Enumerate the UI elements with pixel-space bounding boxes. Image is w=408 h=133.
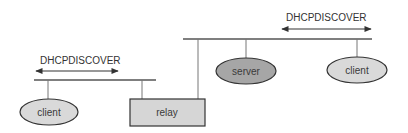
right-network-segment: DHCPDISCOVER xyxy=(183,12,372,99)
client-left-label: client xyxy=(37,107,61,118)
node-server: server xyxy=(216,58,276,84)
client-right-label: client xyxy=(345,65,369,76)
relay-label: relay xyxy=(156,107,178,118)
right-message-label: DHCPDISCOVER xyxy=(286,12,367,23)
left-message-label: DHCPDISCOVER xyxy=(40,55,121,66)
node-client-right: client xyxy=(327,57,387,83)
node-client-left: client xyxy=(20,99,78,125)
server-label: server xyxy=(232,66,260,77)
dhcp-relay-diagram: DHCPDISCOVER DHCPDISCOVER client relay s… xyxy=(0,0,408,133)
left-network-segment: DHCPDISCOVER xyxy=(34,55,156,100)
node-relay: relay xyxy=(130,99,205,126)
